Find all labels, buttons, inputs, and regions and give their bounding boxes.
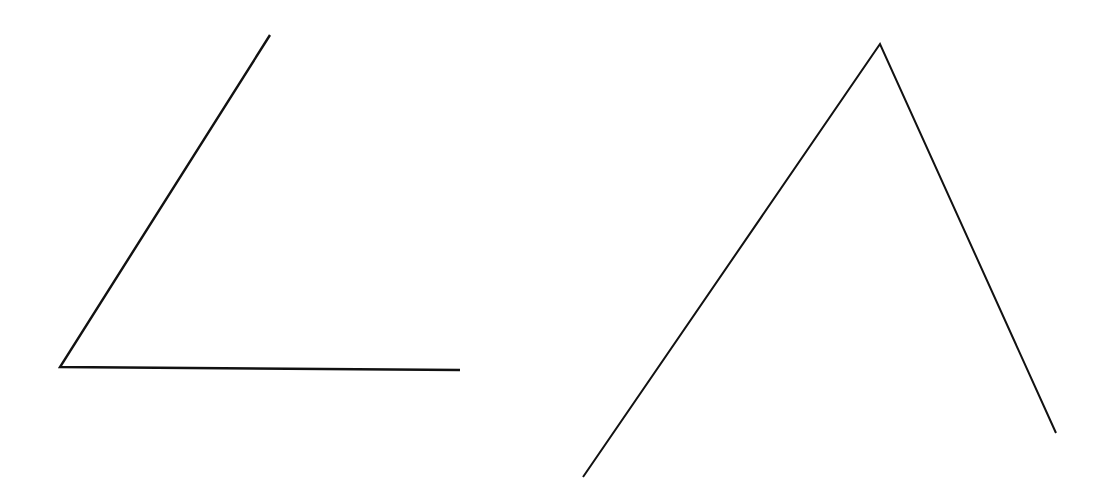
open-triangle-figure: [583, 44, 1056, 477]
diagram-canvas: [0, 0, 1112, 492]
angle-figure: [60, 35, 460, 370]
